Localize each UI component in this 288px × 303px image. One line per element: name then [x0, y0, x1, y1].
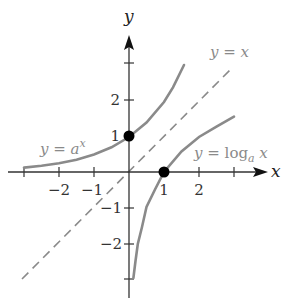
- exponential-label: y = ax: [39, 137, 87, 158]
- x-tick-label-neg2: −2: [48, 181, 70, 199]
- y-axis-label: y: [123, 6, 134, 26]
- x-tick-label-2: 2: [194, 181, 204, 199]
- identity-label: y = x: [209, 43, 250, 61]
- y-tick-label-neg1: −1: [100, 199, 122, 217]
- point-0-1: [124, 131, 135, 142]
- y-tick-label-neg2: −2: [100, 235, 122, 253]
- graph-canvas: −2 −1 1 2 2 1 −1 −2 x y y = ax y = x y =…: [0, 0, 288, 303]
- point-1-0: [159, 167, 170, 178]
- y-tick-label-2: 2: [110, 91, 120, 109]
- x-axis-label: x: [271, 161, 281, 181]
- x-tick-label-neg1: −1: [81, 181, 103, 199]
- logarithm-curve: [133, 117, 234, 278]
- identity-line: [22, 67, 233, 279]
- logarithm-label: y = loga x: [193, 144, 268, 165]
- x-tick-label-1: 1: [159, 181, 169, 199]
